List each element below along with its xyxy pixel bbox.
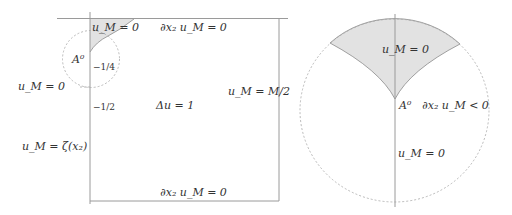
label-condition: ∂x₂ u_M < 0 bbox=[422, 99, 489, 112]
label-top-shaded: u_M = 0 bbox=[92, 21, 139, 34]
label-interior: Δu = 1 bbox=[155, 99, 194, 112]
left-figure: u_M = 0 ∂x₂ u_M = 0 A⁰ −1/4 u_M = 0 −1/2… bbox=[18, 12, 290, 204]
label-top-boundary: ∂x₂ u_M = 0 bbox=[160, 21, 227, 34]
label-tick-half: −1/2 bbox=[93, 102, 115, 112]
label-corner-point: A⁰ bbox=[71, 53, 85, 66]
diagram-canvas: u_M = 0 ∂x₂ u_M = 0 A⁰ −1/4 u_M = 0 −1/2… bbox=[0, 0, 512, 215]
label-shaded-region-right: u_M = 0 bbox=[382, 43, 429, 56]
label-left-boundary: u_M = ζ(x₂) bbox=[22, 140, 87, 153]
label-tick-quarter: −1/4 bbox=[93, 62, 115, 72]
label-left-zero: u_M = 0 bbox=[18, 80, 65, 93]
label-right-boundary: u_M = M/2 bbox=[228, 85, 290, 98]
label-lower-region: u_M = 0 bbox=[398, 147, 445, 160]
label-point-right: A⁰ bbox=[398, 99, 412, 112]
right-figure: u_M = 0 A⁰ ∂x₂ u_M < 0 u_M = 0 bbox=[300, 14, 489, 207]
label-bottom-boundary: ∂x₂ u_M = 0 bbox=[160, 186, 227, 199]
